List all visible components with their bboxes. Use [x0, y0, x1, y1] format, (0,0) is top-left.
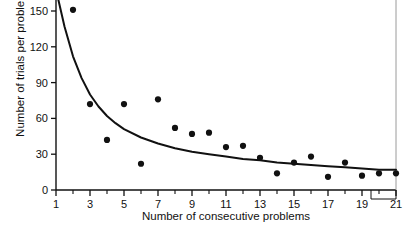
x-tick-label: 9: [189, 198, 195, 210]
data-point: [121, 101, 127, 107]
x-tick-label: 1: [53, 198, 59, 210]
data-point: [172, 125, 178, 131]
x-tick-label: 21: [390, 198, 402, 210]
y-tick-label: 150: [30, 5, 48, 17]
data-point: [342, 159, 348, 165]
data-point: [325, 174, 331, 180]
x-tick-label: 15: [288, 198, 300, 210]
x-tick-label: 13: [254, 198, 266, 210]
data-point: [393, 170, 399, 176]
data-point: [87, 101, 93, 107]
x-tick-label: 3: [87, 198, 93, 210]
data-point: [104, 137, 110, 143]
data-point: [359, 173, 365, 179]
data-point: [70, 7, 76, 13]
x-tick-label: 17: [322, 198, 334, 210]
axis-lines: [56, 0, 396, 199]
x-tick-label: 5: [121, 198, 127, 210]
x-tick-label: 19: [356, 198, 368, 210]
data-point: [257, 155, 263, 161]
scatter-plot: 0306090120150 13579111315171921: [0, 0, 417, 231]
y-tick-label: 0: [42, 184, 48, 196]
x-tick-label: 11: [220, 198, 231, 210]
data-point: [308, 153, 314, 159]
data-point: [189, 131, 195, 137]
y-tick-label: 60: [36, 112, 48, 124]
data-point: [376, 170, 382, 176]
data-point: [206, 130, 212, 136]
data-point: [274, 170, 280, 176]
y-tick-labels: 0306090120150: [30, 5, 48, 196]
data-point: [291, 159, 297, 165]
y-tick-label: 90: [36, 77, 48, 89]
data-point: [223, 144, 229, 150]
data-point: [240, 143, 246, 149]
data-point: [138, 161, 144, 167]
x-tick-label: 7: [155, 198, 161, 210]
x-tick-labels: 13579111315171921: [53, 198, 402, 210]
y-tick-label: 30: [36, 148, 48, 160]
y-tick-label: 120: [30, 41, 48, 53]
data-points: [53, 0, 399, 180]
data-point: [155, 96, 161, 102]
chart-figure: Number of trials per problem Number of c…: [0, 0, 417, 231]
